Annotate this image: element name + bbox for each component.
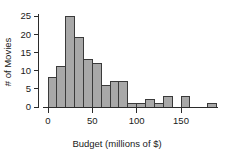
histogram-bar <box>128 103 137 107</box>
histogram-chart: 050100150 0510152025 Budget (millions of… <box>0 0 233 154</box>
x-tick-label: 150 <box>173 115 189 126</box>
histogram-bar <box>154 103 163 107</box>
histogram-bar <box>146 100 155 107</box>
x-tick-label: 0 <box>45 115 50 126</box>
histogram-bar <box>137 103 146 107</box>
y-tick-label: 10 <box>20 65 31 76</box>
x-tick-label: 50 <box>87 115 98 126</box>
y-tick-label: 25 <box>20 10 31 21</box>
y-tick-label: 0 <box>26 101 31 112</box>
histogram-bar <box>75 38 84 107</box>
y-tick-label: 15 <box>20 47 31 58</box>
chart-canvas: 050100150 0510152025 Budget (millions of… <box>0 0 233 154</box>
histogram-bar <box>92 63 101 107</box>
histogram-bar <box>110 82 119 107</box>
x-tick-label: 100 <box>129 115 145 126</box>
histogram-bar <box>163 96 172 107</box>
x-axis-title: Budget (millions of $) <box>72 138 161 149</box>
y-axis-title: # of Movies <box>2 37 13 86</box>
histogram-bar <box>101 85 110 107</box>
histogram-bar <box>181 96 190 107</box>
histogram-bar <box>119 82 128 107</box>
histogram-bar <box>83 60 92 107</box>
y-tick-label: 20 <box>20 29 31 40</box>
histogram-bar <box>57 67 66 107</box>
chart-background <box>0 0 233 154</box>
histogram-bar <box>66 16 75 107</box>
histogram-bar <box>48 78 57 107</box>
histogram-bar <box>208 103 217 107</box>
y-tick-label: 5 <box>26 83 31 94</box>
